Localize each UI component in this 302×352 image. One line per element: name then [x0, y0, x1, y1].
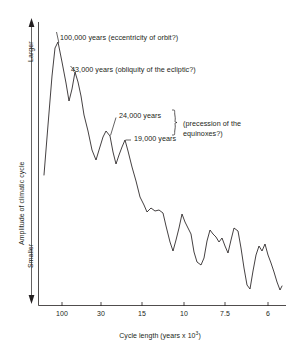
y-axis-label-smaller: Smaller — [27, 244, 34, 268]
chart-canvas — [0, 0, 302, 352]
annotation-19000-years: 19,000 years — [134, 134, 176, 144]
x-tick-label-15: 15 — [138, 310, 146, 317]
x-axis-title: Cycle length (years x 103) — [60, 330, 260, 339]
y-axis-label-larger: Larger — [27, 41, 34, 62]
x-tick-label-30: 30 — [97, 310, 105, 317]
annotation-precession: (precession of the equinoxes?) — [183, 119, 253, 138]
spectrum-curve — [44, 42, 282, 290]
annotation-100000-years: 100,000 years (eccentricity of orbit?) — [60, 33, 178, 43]
x-tick-label-10: 10 — [180, 310, 188, 317]
x-axis-title-text: Cycle length (years x 103) — [119, 332, 201, 339]
annotation-43000-years: 43,000 years (obliquity of the ecliptic?… — [71, 65, 196, 75]
x-tick-label-100: 100 — [56, 310, 68, 317]
annotation-24000-years: 24,000 years — [119, 111, 161, 121]
precession-brace — [173, 110, 178, 135]
x-tick-label-6: 6 — [266, 310, 270, 317]
figure-container: Larger Amplitude of climatic cycle Small… — [0, 0, 302, 352]
x-tick-label-7.5: 7.5 — [220, 310, 230, 317]
y-axis-title: Amplitude of climatic cycle — [18, 162, 25, 245]
annotation-leader-lines — [57, 32, 132, 140]
